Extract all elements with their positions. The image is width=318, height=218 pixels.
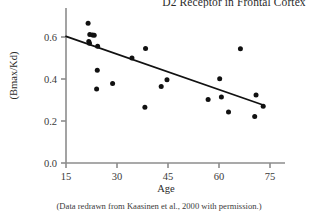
data-points-group xyxy=(86,21,266,119)
y-tick-label: 0.2 xyxy=(44,116,57,127)
data-point xyxy=(238,46,243,51)
data-point xyxy=(87,41,92,46)
data-point xyxy=(94,87,99,92)
x-tick-label: 15 xyxy=(61,171,72,182)
axes-group xyxy=(66,8,285,163)
data-point xyxy=(110,81,115,86)
data-point xyxy=(86,21,91,26)
x-ticks-group: 1530456075 xyxy=(61,163,276,182)
x-tick-label: 45 xyxy=(163,171,174,182)
y-tick-label: 0.6 xyxy=(44,32,57,43)
x-tick-label: 60 xyxy=(214,171,225,182)
data-point xyxy=(95,68,100,73)
data-point xyxy=(129,56,134,61)
y-ticks-group: 0.00.20.40.6 xyxy=(44,32,66,169)
figure-container: D2 Receptor in Frontal Cortex (Bmax/Kd) … xyxy=(0,0,318,218)
scatter-plot: 0.00.20.40.6 1530456075 xyxy=(0,0,318,218)
x-tick-label: 30 xyxy=(112,171,123,182)
data-point xyxy=(219,95,224,100)
data-point xyxy=(217,76,222,81)
data-point xyxy=(261,104,266,109)
data-point xyxy=(226,109,231,114)
data-point xyxy=(95,44,100,49)
y-tick-label: 0.0 xyxy=(44,158,57,169)
data-point xyxy=(206,97,211,102)
data-point xyxy=(164,77,169,82)
data-point xyxy=(142,105,147,110)
data-point xyxy=(159,84,164,89)
y-tick-label: 0.4 xyxy=(44,74,58,85)
data-point xyxy=(92,33,97,38)
data-point xyxy=(143,46,148,51)
data-point xyxy=(252,114,257,119)
data-point xyxy=(254,92,259,97)
x-tick-label: 75 xyxy=(265,171,276,182)
